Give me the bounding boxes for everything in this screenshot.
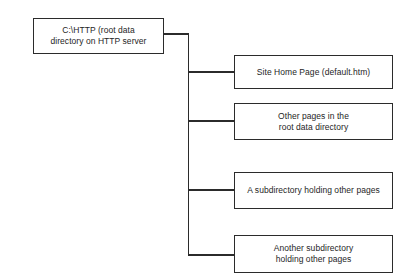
node-another-subdirectory: Another subdirectory holding other pages <box>234 235 393 273</box>
node-site-home-page-label: Site Home Page (default.htm) <box>253 67 374 78</box>
node-subdirectory: A subdirectory holding other pages <box>234 172 393 209</box>
node-root-directory-label: C:\HTTP (root data directory on HTTP ser… <box>47 25 151 47</box>
diagram-canvas: C:\HTTP (root data directory on HTTP ser… <box>0 0 403 280</box>
node-root-directory: C:\HTTP (root data directory on HTTP ser… <box>33 18 164 54</box>
node-other-pages: Other pages in the root data directory <box>234 103 393 140</box>
node-another-subdirectory-label: Another subdirectory holding other pages <box>270 243 357 265</box>
node-other-pages-label: Other pages in the root data directory <box>274 111 353 133</box>
node-subdirectory-label: A subdirectory holding other pages <box>243 185 384 196</box>
node-site-home-page: Site Home Page (default.htm) <box>234 55 393 89</box>
